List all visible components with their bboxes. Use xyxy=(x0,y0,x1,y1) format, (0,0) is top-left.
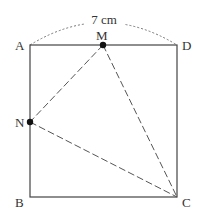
geometry-diagram: 7 cm A D M N B C xyxy=(0,0,203,221)
segment-mn xyxy=(30,45,103,122)
label-c: C xyxy=(182,195,191,210)
segment-mc xyxy=(103,45,177,197)
point-n-dot xyxy=(27,119,33,125)
square-abcd xyxy=(30,45,177,197)
label-d: D xyxy=(182,38,191,53)
dimension-label: 7 cm xyxy=(91,12,117,27)
label-n: N xyxy=(15,115,25,130)
segment-nc xyxy=(30,122,177,197)
label-a: A xyxy=(15,38,25,53)
label-m: M xyxy=(96,28,108,43)
label-b: B xyxy=(15,195,24,210)
